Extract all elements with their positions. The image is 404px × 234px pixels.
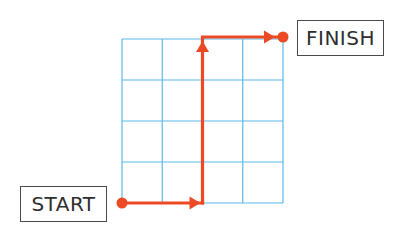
finish-point	[278, 32, 289, 43]
route-path	[117, 31, 289, 210]
start-point	[117, 198, 128, 209]
finish-label: FINISH	[297, 20, 384, 56]
start-label: START	[20, 186, 107, 222]
arrow-head-icon	[196, 41, 209, 52]
arrow-head-icon	[264, 31, 275, 44]
arrow-head-icon	[190, 197, 201, 210]
